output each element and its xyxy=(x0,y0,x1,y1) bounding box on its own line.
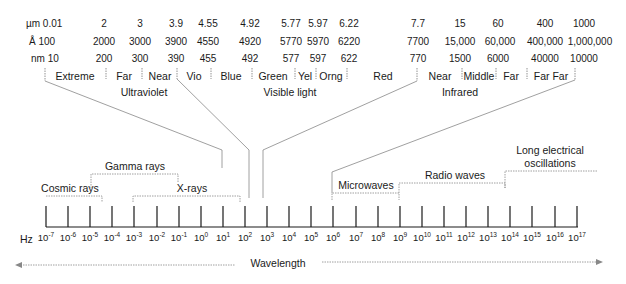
tick-label: 10-3 xyxy=(126,232,142,243)
tick-label: 103 xyxy=(260,232,274,243)
group-infrared: Infrared xyxy=(442,87,478,98)
unit-label-um: µm 0.01 xyxy=(26,19,62,29)
group-visible-light: Visible light xyxy=(264,87,317,98)
tick-label: 101 xyxy=(216,232,230,243)
tick-label: 109 xyxy=(393,232,407,243)
group-ultraviolet: Ultraviolet xyxy=(121,87,168,98)
band-long-electrical: Long electrical xyxy=(516,145,584,156)
tick-label: 1010 xyxy=(413,232,431,243)
band-microwaves: Microwaves xyxy=(338,180,393,191)
subband-red: Red xyxy=(373,71,392,82)
tick-label: 1014 xyxy=(501,232,519,243)
tick-label: 10-6 xyxy=(60,232,76,243)
subband-blue: Blue xyxy=(220,71,241,82)
band-x-rays: X-rays xyxy=(177,183,207,194)
tick-label: 10-5 xyxy=(82,232,98,243)
subband-ir-near: Near xyxy=(429,71,452,82)
arrow-right-icon xyxy=(596,258,604,266)
wavelength-label: Wavelength xyxy=(250,258,305,269)
band-radio-waves: Radio waves xyxy=(425,170,485,181)
subband-ir-middle: Middle xyxy=(464,71,495,82)
tick-label: 105 xyxy=(304,232,318,243)
tick-label: 10-4 xyxy=(104,232,120,243)
subband-orange: Orng xyxy=(319,71,342,82)
subband-yellow: Yel xyxy=(298,71,312,82)
tick-label: 1016 xyxy=(546,232,564,243)
subband-violet: Vio xyxy=(187,71,202,82)
tick-label: 106 xyxy=(326,232,340,243)
tick-label: 1013 xyxy=(479,232,497,243)
tick-label: 1011 xyxy=(435,232,452,243)
tick-label: 100 xyxy=(194,232,208,243)
subband-green: Green xyxy=(258,71,287,82)
arrow-left-icon xyxy=(14,261,22,269)
unit-label-nm: nm 10 xyxy=(31,54,59,64)
subband-uv-extreme: Extreme xyxy=(55,71,94,82)
band-oscillations: oscillations xyxy=(524,158,575,169)
tick-label: 10-2 xyxy=(149,232,165,243)
tick-label: 1012 xyxy=(457,232,475,243)
subband-uv-far: Far xyxy=(116,71,132,82)
subband-ir-far: Far xyxy=(503,71,519,82)
subband-uv-near: Near xyxy=(149,71,172,82)
tick-label: 10-1 xyxy=(171,232,187,243)
tick-label: 107 xyxy=(349,232,363,243)
unit-label-angstrom: Å 100 xyxy=(29,37,55,47)
subband-ir-far-far: Far Far xyxy=(534,71,568,82)
band-cosmic-rays: Cosmic rays xyxy=(41,183,99,194)
tick-label: 1017 xyxy=(568,232,586,243)
tick-label: 108 xyxy=(371,232,385,243)
tick-label: 1015 xyxy=(523,232,541,243)
band-gamma-rays: Gamma rays xyxy=(105,161,165,172)
axis-unit-hz: Hz xyxy=(20,234,33,245)
tick-label: 104 xyxy=(282,232,296,243)
tick-label: 102 xyxy=(238,232,252,243)
tick-label: 10-7 xyxy=(38,232,54,243)
